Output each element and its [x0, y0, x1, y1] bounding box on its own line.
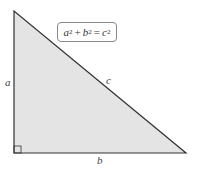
- formula-plus: +: [75, 26, 81, 38]
- pythagorean-formula-box: a2 + b2 = c2: [57, 22, 117, 42]
- side-c-label: c: [106, 74, 111, 86]
- side-a-label: a: [5, 76, 11, 88]
- formula-equals: =: [94, 26, 100, 38]
- side-b-label: b: [97, 154, 103, 166]
